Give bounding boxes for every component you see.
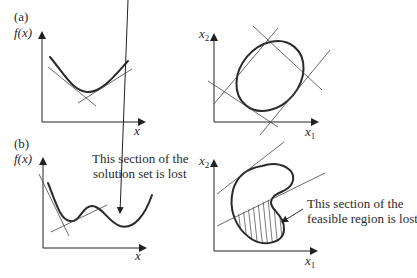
- panel-b-region-plot: x2 x1: [198, 142, 417, 270]
- tangent-line-2: [253, 26, 322, 90]
- tangent-line-4: [208, 81, 278, 127]
- panel-b-label: (b): [14, 136, 29, 151]
- panel-b-function-plot: f(x) x This section of the solution set …: [14, 0, 189, 263]
- panel-a-label: (a): [14, 9, 28, 24]
- annotation-arrow: [282, 209, 303, 222]
- y-axis-label: x2: [198, 153, 209, 170]
- y-axis-label: x2: [198, 26, 209, 43]
- x-axis-label: x: [133, 123, 140, 138]
- x-axis-label: x: [134, 248, 141, 263]
- x-axis-label: x1: [304, 253, 315, 270]
- tangent-line-upper: [217, 142, 284, 194]
- y-axis-label: f(x): [14, 25, 32, 40]
- annotation-line-1: This section of the: [307, 196, 404, 211]
- y-axis-label: f(x): [14, 151, 32, 166]
- annotation-arrow: [120, 0, 128, 213]
- panel-b: (b) f(x) x This section of the solution …: [14, 0, 417, 270]
- panel-a-region-plot: x2 x1: [198, 26, 330, 141]
- annotation-line-2: solution set is lost: [93, 166, 187, 181]
- annotation-line-1: This section of the: [92, 151, 189, 166]
- convexity-diagram: (a) f(x) x x2 x1 (b) f(x): [0, 0, 417, 278]
- nonconvex-curve: [48, 183, 152, 227]
- tangent-line-1: [214, 28, 278, 104]
- x-axis-label: x1: [304, 124, 315, 141]
- annotation-line-2: feasible region is lost: [307, 211, 417, 226]
- convex-curve: [50, 57, 128, 92]
- tangent-line-left: [48, 67, 96, 106]
- panel-a: (a) f(x) x x2 x1: [14, 9, 330, 141]
